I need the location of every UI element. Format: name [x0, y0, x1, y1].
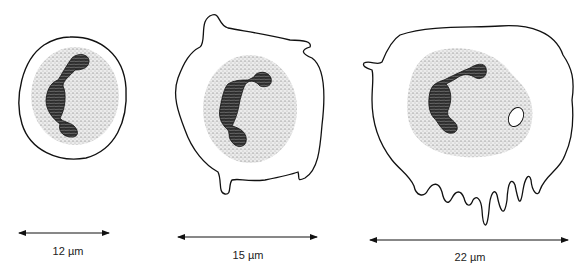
scale-label-22um: 22 µm: [455, 251, 486, 263]
cell-1: [19, 37, 126, 159]
cell-2: [176, 15, 324, 195]
cell-2-cytoplasm: [203, 55, 297, 163]
cell-3: [363, 26, 573, 225]
scale-label-12um: 12 µm: [53, 245, 84, 257]
scale-label-15um: 15 µm: [233, 249, 264, 261]
cell-size-diagram: [0, 0, 587, 273]
